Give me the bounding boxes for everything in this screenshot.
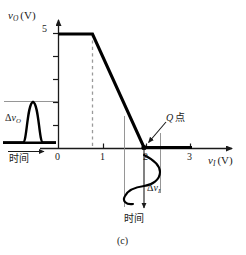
delta-vo-label: ΔvO <box>5 113 21 125</box>
q-point-symbol: Q <box>166 112 173 123</box>
transfer-curve-path <box>59 34 193 148</box>
delta-vi-subscript: I <box>158 187 160 194</box>
y-axis-title-unit: (V) <box>20 9 35 21</box>
transfer-curve <box>59 34 193 148</box>
q-point-leader-line <box>149 122 167 143</box>
input-sine-waveform <box>124 155 160 204</box>
figure-caption: (c) <box>117 236 128 246</box>
q-point-label: Q点 <box>166 113 185 123</box>
y-axis-title: vO(V) <box>8 10 36 23</box>
q-point-word: 点 <box>175 112 185 123</box>
x-axis-title-subscript: I <box>213 159 216 168</box>
time-label-input: 时间 <box>124 214 144 224</box>
delta-vo-subscript: O <box>16 117 21 124</box>
x-tick-label-2: 2 <box>143 152 148 162</box>
x-tick-label-0: 0 <box>55 152 60 162</box>
time-label-output: 时间 <box>9 154 29 164</box>
delta-vi-label: ΔvI <box>147 183 160 195</box>
transfer-characteristic-figure: vO(V) vI(V) 5 0 1 2 3 Q点 ΔvO ΔvI 时间 时间 (… <box>0 0 246 255</box>
q-point-group <box>141 122 166 150</box>
y-tick-marks <box>53 34 59 126</box>
input-sine-path <box>124 155 160 204</box>
x-tick-label-3: 3 <box>187 152 192 162</box>
x-tick-label-1: 1 <box>100 152 105 162</box>
y-tick-label-5: 5 <box>42 24 47 34</box>
figure-canvas <box>0 0 246 255</box>
y-axis-title-subscript: O <box>13 14 18 23</box>
x-axis-title-unit: (V) <box>217 154 232 166</box>
x-axis-title: vI(V) <box>208 155 233 168</box>
